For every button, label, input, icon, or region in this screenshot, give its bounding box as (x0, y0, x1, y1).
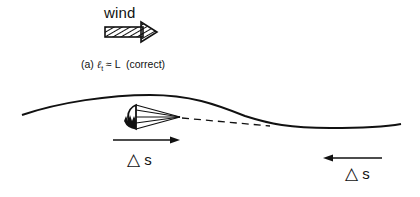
trajectory-curve (22, 95, 401, 128)
delta-s-variable: s (144, 151, 152, 168)
caption-ell-subscript: t (101, 65, 103, 72)
delta-s-left-arrow (113, 137, 180, 144)
delta-s-variable: s (362, 165, 370, 182)
wind-label: wind (104, 4, 136, 21)
delta-symbol: △ (127, 150, 140, 169)
delta-symbol: △ (345, 164, 358, 183)
caption-prefix: (a) (81, 58, 94, 70)
diagram-canvas: wind (a) ℓt ≈ L (correct) △ s △ s (0, 0, 420, 197)
parachute-icon (124, 105, 180, 129)
caption-relation: ≈ L (106, 58, 120, 70)
figure-caption: (a) ℓt ≈ L (correct) (81, 58, 165, 72)
caption-note: (correct) (126, 58, 165, 70)
delta-s-right-arrow (323, 155, 382, 162)
delta-s-left-label: △ s (127, 149, 152, 170)
delta-s-right-label: △ s (345, 163, 370, 184)
wind-arrow-icon (105, 22, 157, 42)
